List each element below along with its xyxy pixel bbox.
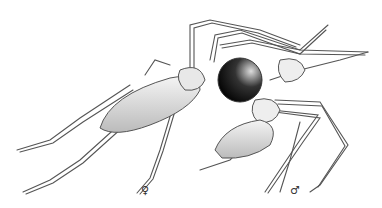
spider-drawing [0, 0, 382, 208]
spider-illustration [0, 0, 382, 208]
male-symbol: ♂ [290, 185, 300, 196]
female-symbol: ♀ [141, 185, 149, 196]
